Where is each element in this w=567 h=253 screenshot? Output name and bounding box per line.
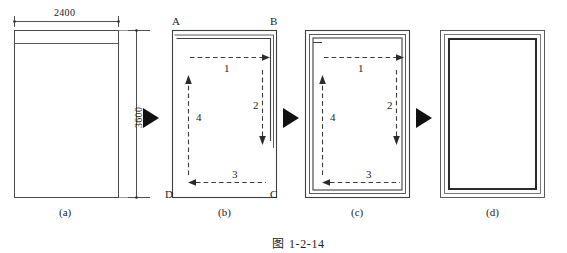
figure-caption-number: 1-2-14 bbox=[289, 237, 325, 251]
figure-caption: 图1-2-14 bbox=[258, 226, 325, 253]
panel-b-corner-label-c: C bbox=[270, 189, 277, 200]
panel-c-sheet-outline bbox=[306, 31, 410, 198]
panel-b-corner-label-b: B bbox=[270, 16, 277, 27]
panel-b-corner-label-d: D bbox=[165, 189, 173, 200]
panel-c-step-label-1: 1 bbox=[358, 63, 364, 74]
panel-label-a: (a) bbox=[59, 207, 71, 218]
panel-a-sheet-outline bbox=[15, 31, 119, 198]
panel-d-drawing bbox=[441, 31, 545, 198]
panel-a-height-dimension-label: 3600 bbox=[134, 107, 144, 128]
flow-arrow-c-to-d bbox=[416, 108, 432, 128]
panel-a-drawing bbox=[13, 16, 150, 199]
figure-caption-prefix: 图 bbox=[272, 237, 285, 251]
panel-c-step-label-4: 4 bbox=[330, 112, 336, 123]
panel-b-step-label-3: 3 bbox=[232, 169, 238, 180]
panel-label-c: (c) bbox=[351, 207, 363, 218]
flow-arrow-b-to-c bbox=[283, 108, 299, 128]
panel-b-step-label-2: 2 bbox=[253, 100, 259, 111]
panel-b-step-label-4: 4 bbox=[196, 112, 202, 123]
panel-b-step-label-1: 1 bbox=[224, 63, 230, 74]
flow-arrow-a-to-b bbox=[143, 108, 159, 128]
panel-label-d: (d) bbox=[486, 207, 499, 218]
panel-c-drawing bbox=[306, 31, 410, 198]
panel-c-step-label-2: 2 bbox=[387, 100, 393, 111]
panel-a-width-dimension-label: 2400 bbox=[54, 8, 75, 18]
panel-b-corner-label-a: A bbox=[172, 16, 180, 27]
panel-d-sheet-outline bbox=[441, 31, 545, 198]
panel-c-step-label-3: 3 bbox=[366, 169, 372, 180]
panel-label-b: (b) bbox=[218, 207, 231, 218]
panel-b-drawing bbox=[173, 31, 277, 198]
